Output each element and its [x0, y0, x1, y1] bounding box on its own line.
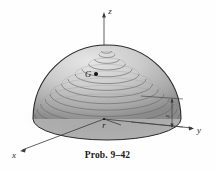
- y-axis-arrow: [189, 126, 194, 130]
- height-dimension-label: z: [163, 114, 171, 118]
- hemisphere-figure-svg: z y x G r z: [0, 0, 215, 172]
- z-axis-arrow: [102, 12, 106, 18]
- dome-body: [33, 45, 181, 140]
- figure-container: z y x G r z Prob. 9–42: [0, 0, 215, 172]
- z-axis-label: z: [107, 6, 112, 16]
- dome-base-rim: [33, 119, 181, 140]
- figure-caption: Prob. 9–42: [0, 150, 215, 160]
- centroid-dot: [94, 72, 98, 76]
- y-axis-label: y: [196, 125, 201, 135]
- centroid-label: G: [85, 69, 91, 79]
